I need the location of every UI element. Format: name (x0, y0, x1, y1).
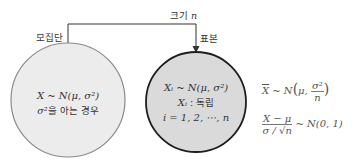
sample-label: 표본 (200, 31, 218, 45)
population-condition: σ²을 아는 경우 (28, 103, 108, 118)
formula-standardized: X − μσ / √n ~ N(0, 1) (262, 113, 343, 136)
f2-numerator: X − μ (262, 113, 292, 125)
sample-independence: Xᵢ : 독립 (151, 95, 241, 110)
condition-text: 을 아는 경우 (48, 105, 99, 116)
population-text: X ~ N(μ, σ²) σ²을 아는 경우 (28, 88, 108, 118)
f1-denominator: n (311, 92, 324, 103)
size-label-text: 크기 (170, 10, 188, 21)
sample-var: Xᵢ (178, 97, 187, 108)
independence-text: : 독립 (187, 97, 214, 108)
population-label: 모집단 (36, 30, 63, 44)
sample-index-range: i = 1, 2, ⋯, n (151, 110, 241, 125)
f2-denominator: σ / √n (262, 125, 292, 136)
f2-fraction: X − μσ / √n (262, 113, 292, 136)
sample-text: Xᵢ ~ N(μ, σ²) Xᵢ : 독립 i = 1, 2, ⋯, n (151, 80, 241, 125)
sigma-squared: σ² (37, 105, 47, 116)
connector-line (68, 24, 196, 49)
f1-numerator: σ² (311, 80, 324, 92)
f1-dist: ~ N (269, 85, 293, 96)
sample-distribution: Xᵢ ~ N(μ, σ²) (151, 80, 241, 95)
population-distribution: X ~ N(μ, σ²) (28, 88, 108, 103)
size-variable: n (191, 10, 197, 21)
formula-sample-mean: X ~ N(μ, σ²n) (262, 80, 329, 103)
f1-fraction: σ²n (311, 80, 324, 103)
sample-size-label: 크기 n (170, 8, 197, 22)
f1-mu: μ, (298, 85, 311, 96)
f2-rhs: ~ N(0, 1) (292, 118, 342, 129)
